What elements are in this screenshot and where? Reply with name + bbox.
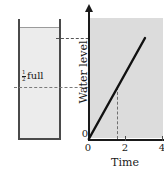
one-half-fraction: 1 2	[22, 70, 26, 82]
full-word: full	[27, 70, 44, 81]
water-level-chart: 0 0 2 4 Time Water level	[75, 0, 164, 180]
water-level-figure: 1 2 full 0 0 2 4 Time Water level	[0, 0, 164, 180]
glass-bottom	[18, 138, 61, 140]
water-container: 1 2 full	[0, 0, 76, 180]
x-tick-label-4: 4	[156, 143, 164, 153]
x-axis-title: Time	[100, 157, 150, 169]
half-full-label: 1 2 full	[22, 70, 62, 83]
water-fill	[20, 27, 59, 138]
y-axis-title: Water level	[78, 35, 90, 109]
glass-left-wall	[18, 19, 20, 140]
fraction-denominator: 2	[22, 76, 26, 83]
fraction-numerator: 1	[22, 70, 26, 76]
y-axis-origin-label: 0	[77, 129, 88, 139]
x-tick-label-0: 0	[82, 143, 94, 153]
water-surface-line	[20, 27, 59, 28]
x-tick-label-2: 2	[119, 143, 131, 153]
